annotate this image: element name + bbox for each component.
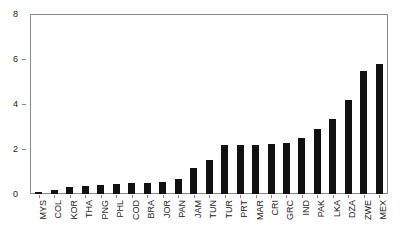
y-tick-mark (22, 104, 26, 105)
x-tick-slot: MEX (372, 195, 387, 238)
x-tick-mark (333, 195, 334, 198)
bar[interactable] (376, 64, 383, 194)
bar-slot (124, 15, 139, 194)
x-tick-slot: PHL (108, 195, 123, 238)
x-tick-slot: KOR (62, 195, 77, 238)
bar-slot (77, 15, 92, 194)
x-tick-slot: PAN (170, 195, 185, 238)
bar[interactable] (35, 192, 42, 194)
bar-slot (155, 15, 170, 194)
x-tick-mark (178, 195, 179, 198)
bar[interactable] (329, 119, 336, 194)
x-axis: MYSCOLKORTHAPNGPHLCODBRAJORPANJAMTUNTURP… (31, 195, 387, 238)
bar-slot (93, 15, 108, 194)
bar-slot (310, 15, 325, 194)
x-tick-slot: JOR (155, 195, 170, 238)
bar-slot (325, 15, 340, 194)
x-tick-mark (225, 195, 226, 198)
bar-slot (372, 15, 387, 194)
bar-slot (31, 15, 46, 194)
x-tick-mark (101, 195, 102, 198)
bar-slot (232, 15, 247, 194)
bar[interactable] (51, 190, 58, 194)
x-tick-slot: JAM (186, 195, 201, 238)
bar[interactable] (190, 168, 197, 194)
bar[interactable] (128, 183, 135, 194)
x-tick-slot: COL (46, 195, 61, 238)
x-tick-slot: ZWE (356, 195, 371, 238)
x-tick-mark (39, 195, 40, 198)
x-tick-slot: LKA (325, 195, 340, 238)
x-tick-slot: DZA (341, 195, 356, 238)
x-tick-mark (85, 195, 86, 198)
x-tick-mark (364, 195, 365, 198)
bar-slot (217, 15, 232, 194)
bar[interactable] (314, 129, 321, 194)
x-tick-slot: MYS (31, 195, 46, 238)
bar[interactable] (283, 143, 290, 194)
x-tick-mark (209, 195, 210, 198)
x-tick-mark (302, 195, 303, 198)
bar[interactable] (252, 145, 259, 194)
bar[interactable] (345, 100, 352, 194)
x-tick-slot: TUN (201, 195, 216, 238)
bar-slot (108, 15, 123, 194)
x-tick-mark (147, 195, 148, 198)
bar[interactable] (66, 187, 73, 194)
x-tick-mark (240, 195, 241, 198)
bar-slot (139, 15, 154, 194)
x-tick-slot: COD (124, 195, 139, 238)
bar[interactable] (97, 185, 104, 194)
x-tick-slot: THA (77, 195, 92, 238)
y-axis: 02468 (0, 0, 26, 238)
y-tick-label: 2 (13, 145, 18, 154)
bar-slot (46, 15, 61, 194)
plot-area (31, 15, 387, 194)
bar[interactable] (159, 182, 166, 194)
x-tick-mark (116, 195, 117, 198)
bar-slot (186, 15, 201, 194)
bar-chart: 02468 MYSCOLKORTHAPNGPHLCODBRAJORPANJAMT… (0, 0, 400, 238)
x-tick-mark (70, 195, 71, 198)
bar[interactable] (206, 160, 213, 194)
x-tick-mark (286, 195, 287, 198)
bar-slot (263, 15, 278, 194)
x-tick-slot: IND (294, 195, 309, 238)
bar-slot (294, 15, 309, 194)
bar-slot (341, 15, 356, 194)
x-tick-slot: PRT (232, 195, 247, 238)
bar[interactable] (237, 145, 244, 194)
y-tick-label: 6 (13, 55, 18, 64)
bar[interactable] (144, 183, 151, 194)
bar[interactable] (298, 138, 305, 194)
x-tick-label: MEX (379, 200, 388, 220)
x-tick-slot: MAR (248, 195, 263, 238)
bar[interactable] (268, 144, 275, 194)
x-tick-mark (271, 195, 272, 198)
x-tick-mark (54, 195, 55, 198)
bar[interactable] (360, 71, 367, 194)
x-tick-slot: PNG (93, 195, 108, 238)
x-tick-mark (348, 195, 349, 198)
x-tick-slot: CRI (263, 195, 278, 238)
y-tick-label: 4 (13, 100, 18, 109)
y-tick-mark (22, 59, 26, 60)
bar-slot (356, 15, 371, 194)
x-tick-mark (379, 195, 380, 198)
x-tick-mark (132, 195, 133, 198)
y-tick-label: 8 (13, 10, 18, 19)
x-tick-mark (317, 195, 318, 198)
bar[interactable] (113, 184, 120, 194)
x-tick-slot: TUR (217, 195, 232, 238)
x-tick-mark (163, 195, 164, 198)
bar[interactable] (175, 179, 182, 194)
bar-slot (279, 15, 294, 194)
x-tick-slot: PAK (310, 195, 325, 238)
bar[interactable] (82, 186, 89, 194)
bar-slot (201, 15, 216, 194)
bar-slot (170, 15, 185, 194)
bar[interactable] (221, 145, 228, 194)
y-tick-label: 0 (13, 190, 18, 199)
x-tick-mark (194, 195, 195, 198)
bar-slot (62, 15, 77, 194)
